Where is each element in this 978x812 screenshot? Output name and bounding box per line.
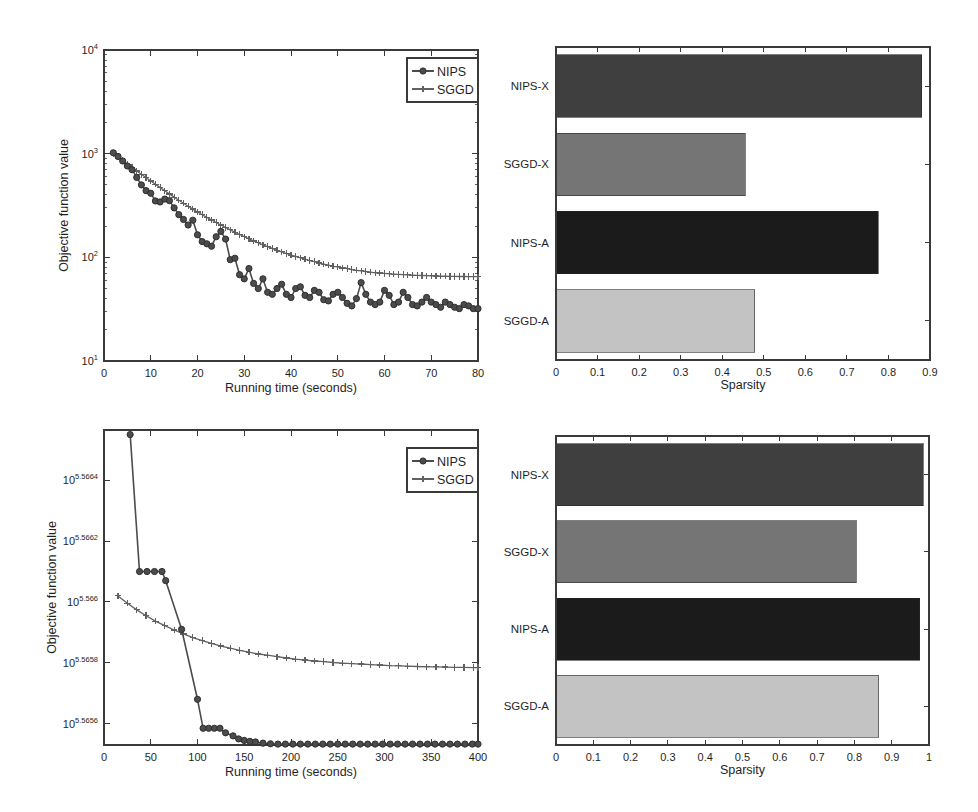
sparsity-bottom-x-tick-label: 0.9 [884, 751, 899, 763]
objective-vs-time-top-marker-NIPS [213, 234, 219, 240]
objective-vs-time-top-marker-NIPS [405, 294, 411, 300]
objective-vs-time-top-marker-NIPS [363, 291, 369, 297]
objective-vs-time-top-marker-NIPS [194, 232, 200, 238]
objective-vs-time-top-marker-NIPS [246, 265, 252, 271]
objective-vs-time-bottom-marker-NIPS [267, 741, 273, 747]
objective-vs-time-bottom-marker-NIPS [475, 741, 481, 747]
objective-vs-time-bottom-marker-NIPS [179, 626, 185, 632]
objective-vs-time-bottom-marker-NIPS [409, 741, 415, 747]
objective-vs-time-bottom-marker-NIPS [342, 741, 348, 747]
objective-vs-time-bottom-marker-NIPS [432, 741, 438, 747]
sparsity-bottom-subplot: NIPS-XSGGD-XNIPS-ASGGD-A00.10.20.30.40.5… [504, 436, 932, 777]
objective-vs-time-bottom-x-tick-label: 200 [282, 751, 300, 763]
objective-vs-time-bottom-marker-NIPS [275, 741, 281, 747]
objective-vs-time-bottom-marker-NIPS [380, 741, 386, 747]
objective-vs-time-top-marker-NIPS [358, 280, 364, 286]
sparsity-bottom-x-tick-label: 0.2 [623, 751, 638, 763]
objective-vs-time-bottom-marker-NIPS [151, 568, 157, 574]
objective-vs-time-bottom-y-tick-label: 105.5658 [63, 655, 98, 669]
objective-vs-time-top-marker-NIPS [381, 287, 387, 293]
objective-vs-time-top-marker-NIPS [325, 298, 331, 304]
sparsity-top-x-tick-label: 0.1 [590, 366, 605, 378]
objective-vs-time-bottom-marker-NIPS [217, 725, 223, 731]
objective-vs-time-bottom-marker-NIPS [372, 741, 378, 747]
objective-vs-time-top-marker-NIPS [349, 303, 355, 309]
sparsity-top-bar-NIPS-A [556, 211, 878, 274]
sparsity-top-x-tick-label: 0.7 [839, 366, 854, 378]
objective-vs-time-top-marker-NIPS [148, 190, 154, 196]
objective-vs-time-bottom-marker-NIPS [454, 741, 460, 747]
objective-vs-time-top-legend-label-NIPS: NIPS [437, 65, 466, 79]
sparsity-top-x-axis-label: Sparsity [720, 378, 766, 392]
objective-vs-time-bottom-marker-NIPS [260, 740, 266, 746]
objective-vs-time-top-x-tick-label: 60 [378, 367, 390, 379]
objective-vs-time-top-marker-NIPS [475, 306, 481, 312]
sparsity-bottom-category-label-SGGD-X: SGGD-X [504, 546, 550, 558]
objective-vs-time-bottom-marker-NIPS [417, 741, 423, 747]
sparsity-bottom-x-tick-label: 1 [926, 751, 932, 763]
objective-vs-time-bottom-marker-NIPS [350, 741, 356, 747]
objective-vs-time-top-marker-NIPS [171, 205, 177, 211]
objective-vs-time-bottom-x-tick-label: 300 [375, 751, 393, 763]
objective-vs-time-bottom-marker-NIPS [365, 741, 371, 747]
objective-vs-time-bottom-y-tick-label: 105.5656 [63, 716, 98, 730]
objective-vs-time-bottom-marker-NIPS [290, 741, 296, 747]
objective-vs-time-top-marker-NIPS [166, 198, 172, 204]
objective-vs-time-top-marker-NIPS [180, 216, 186, 222]
objective-vs-time-top-marker-NIPS [129, 167, 135, 173]
objective-vs-time-top-marker-NIPS [279, 281, 285, 287]
sparsity-top-x-tick-label: 0.4 [715, 366, 730, 378]
objective-vs-time-bottom-marker-NIPS [127, 431, 133, 437]
figure-canvas: 01020304050607080101102103104Running tim… [0, 0, 978, 812]
objective-vs-time-top-marker-NIPS [335, 289, 341, 295]
objective-vs-time-bottom-legend-label-NIPS: NIPS [437, 455, 466, 469]
objective-vs-time-bottom-marker-NIPS [136, 568, 142, 574]
objective-vs-time-top-marker-NIPS [395, 299, 401, 305]
objective-vs-time-bottom-x-tick-label: 400 [469, 751, 487, 763]
objective-vs-time-top-legend-marker [420, 68, 426, 74]
sparsity-bottom-x-tick-label: 0.5 [735, 751, 750, 763]
sparsity-bottom-bar-NIPS-X [556, 444, 923, 506]
sparsity-top-x-tick-label: 0.2 [631, 366, 646, 378]
objective-vs-time-bottom-marker-NIPS [357, 741, 363, 747]
sparsity-bottom-bar-SGGD-A [556, 675, 879, 737]
objective-vs-time-top-marker-NIPS [400, 289, 406, 295]
objective-vs-time-bottom-marker-NIPS [394, 741, 400, 747]
objective-vs-time-top-y-tick-label: 104 [82, 42, 98, 56]
sparsity-bottom-category-label-SGGD-A: SGGD-A [504, 700, 550, 712]
sparsity-bottom-x-tick-label: 0.1 [586, 751, 601, 763]
objective-vs-time-bottom-marker-NIPS [335, 741, 341, 747]
objective-vs-time-bottom-subplot: 050100150200250300350400105.5656105.5658… [45, 430, 487, 779]
objective-vs-time-bottom-y-tick-label: 105.566 [67, 594, 98, 608]
objective-vs-time-top-x-axis-label: Running time (seconds) [225, 381, 357, 395]
sparsity-top-x-tick-label: 0.8 [881, 366, 896, 378]
sparsity-bottom-category-label-NIPS-X: NIPS-X [511, 469, 550, 481]
objective-vs-time-top-x-tick-label: 50 [332, 367, 344, 379]
objective-vs-time-top-marker-NIPS [208, 243, 214, 249]
objective-vs-time-top-legend-label-SGGD: SGGD [437, 83, 474, 97]
objective-vs-time-top-marker-NIPS [307, 294, 313, 300]
objective-vs-time-bottom-y-tick-label: 105.5662 [63, 533, 98, 547]
sparsity-bottom-x-tick-label: 0 [553, 751, 559, 763]
objective-vs-time-bottom-marker-NIPS [159, 568, 165, 574]
objective-vs-time-bottom-x-tick-label: 50 [145, 751, 157, 763]
objective-vs-time-top-marker-NIPS [134, 174, 140, 180]
sparsity-bottom-x-tick-label: 0.3 [660, 751, 675, 763]
objective-vs-time-top-x-tick-label: 10 [145, 367, 157, 379]
sparsity-bottom-x-tick-label: 0.6 [772, 751, 787, 763]
sparsity-bottom-category-label-NIPS-A: NIPS-A [511, 623, 550, 635]
objective-vs-time-bottom-x-tick-label: 0 [101, 751, 107, 763]
sparsity-top-category-label-NIPS-X: NIPS-X [511, 80, 550, 92]
objective-vs-time-top-y-tick-label: 103 [82, 146, 98, 160]
objective-vs-time-bottom-marker-NIPS [402, 741, 408, 747]
objective-vs-time-top-marker-NIPS [288, 294, 294, 300]
sparsity-bottom-bar-SGGD-X [556, 521, 856, 583]
objective-vs-time-top-marker-NIPS [377, 299, 383, 305]
objective-vs-time-top-marker-NIPS [185, 222, 191, 228]
sparsity-bottom-x-tick-label: 0.7 [809, 751, 824, 763]
objective-vs-time-bottom-legend-label-SGGD: SGGD [437, 473, 474, 487]
objective-vs-time-bottom-legend-marker [420, 458, 426, 464]
objective-vs-time-bottom-marker-NIPS [320, 741, 326, 747]
objective-vs-time-bottom-marker-NIPS [144, 568, 150, 574]
sparsity-top-category-label-NIPS-A: NIPS-A [511, 237, 550, 249]
